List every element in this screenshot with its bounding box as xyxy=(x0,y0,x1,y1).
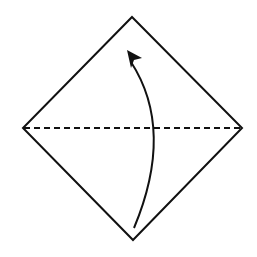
arrow-head-icon xyxy=(127,50,142,68)
fold-arrow xyxy=(131,62,154,228)
origami-diagram xyxy=(0,0,257,257)
